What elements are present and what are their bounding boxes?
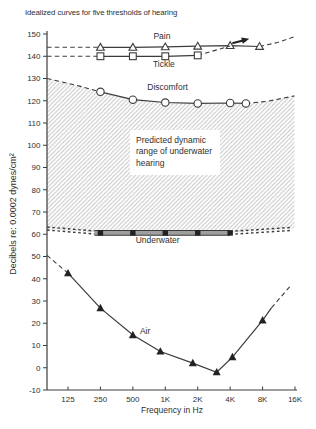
figure-title: Idealized curves for five thresholds of … — [25, 8, 177, 17]
y-tick-label: 70 — [32, 208, 41, 217]
pain-dashed-right — [260, 37, 294, 46]
y-tick-label: 10 — [32, 341, 41, 350]
x-tick-label: 250 — [94, 395, 108, 404]
y-tick-label: 0 — [36, 364, 41, 373]
annotation-line: range of underwater — [136, 146, 212, 156]
y-tick-label: 90 — [32, 163, 41, 172]
x-tick-label: 8K — [258, 395, 268, 404]
tickle-dashed-right — [198, 46, 231, 55]
y-tick-label: 150 — [27, 30, 41, 39]
air-curve — [68, 273, 272, 372]
air-dashed-left — [47, 255, 68, 273]
underwater-marker — [195, 230, 200, 235]
x-tick-label: 16K — [288, 395, 303, 404]
tickle-label: Tickle — [153, 59, 175, 69]
annotation-line: Predicted dynamic — [136, 135, 207, 145]
underwater-label: Underwater — [136, 235, 180, 245]
y-tick-label: 30 — [32, 297, 41, 306]
x-tick-label: 2K — [193, 395, 203, 404]
annotation-line: hearing — [136, 158, 165, 168]
y-tick-label: -10 — [29, 386, 41, 395]
x-tick-label: 1K — [160, 395, 170, 404]
discomfort-marker — [242, 100, 249, 107]
figure: Predicted dynamicrange of underwaterhear… — [0, 0, 316, 429]
air-marker — [64, 269, 72, 276]
pain-label: Pain — [153, 31, 170, 41]
discomfort-marker — [129, 96, 136, 103]
y-tick-label: 130 — [27, 74, 41, 83]
discomfort-marker — [194, 100, 201, 107]
y-tick-label: 100 — [27, 141, 41, 150]
discomfort-label: Discomfort — [147, 82, 188, 92]
y-axis-label: Decibels re: 0.0002 dynes/cm² — [8, 153, 18, 275]
y-tick-label: 140 — [27, 52, 41, 61]
x-tick-label: 500 — [126, 395, 140, 404]
y-tick-label: 110 — [28, 119, 41, 128]
y-tick-label: 20 — [32, 319, 41, 328]
air-label: Air — [140, 326, 151, 336]
pain-curve — [100, 46, 259, 48]
air-marker — [156, 347, 164, 354]
x-tick-label: 4K — [225, 395, 235, 404]
air-marker — [129, 331, 137, 338]
tickle-marker — [97, 53, 104, 60]
discomfort-marker — [97, 88, 104, 95]
discomfort-marker — [162, 99, 169, 106]
y-tick-label: 50 — [32, 252, 41, 261]
x-tick-label: 125 — [61, 395, 75, 404]
underwater-marker — [98, 230, 103, 235]
tickle-marker — [129, 53, 136, 60]
hearing-thresholds-chart: Predicted dynamicrange of underwaterhear… — [0, 0, 316, 429]
tickle-curve — [100, 55, 197, 56]
y-tick-label: 120 — [27, 97, 41, 106]
discomfort-marker — [226, 99, 233, 106]
tickle-marker — [194, 52, 201, 59]
pain-direction-arrow — [232, 36, 251, 47]
y-tick-label: 60 — [32, 230, 41, 239]
air-dashed-right — [272, 286, 291, 308]
y-tick-label: 40 — [32, 275, 41, 284]
y-tick-label: 80 — [32, 186, 41, 195]
x-axis-label: Frequency in Hz — [141, 405, 203, 415]
underwater-marker — [227, 230, 232, 235]
